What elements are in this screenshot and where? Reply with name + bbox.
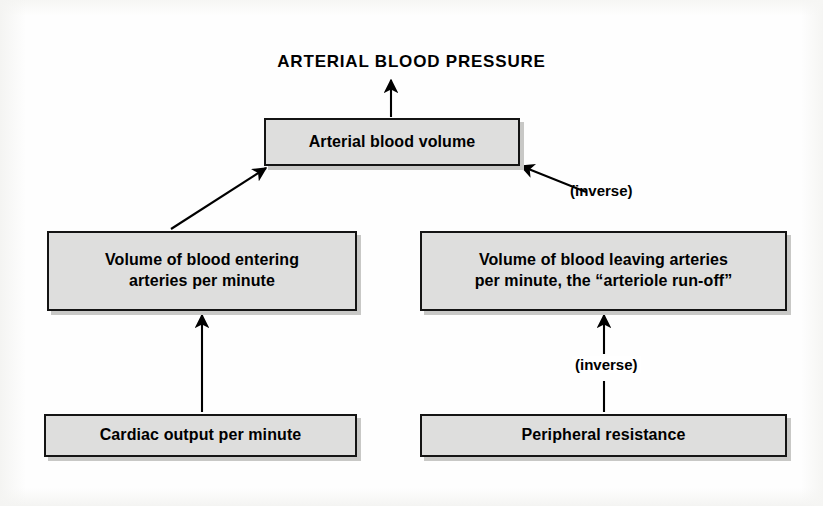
node-peripheral-resistance-label: Peripheral resistance — [522, 425, 686, 446]
edge-label-inverse-lower: (inverse) — [572, 356, 641, 373]
node-volume-entering-label: Volume of blood entering arteries per mi… — [105, 250, 299, 292]
node-arterial-blood-volume-label: Arterial blood volume — [309, 132, 476, 153]
diagram-canvas: ARTERIAL BLOOD PRESSURE --> Arterial blo… — [0, 0, 823, 506]
node-volume-entering-line2: arteries per minute — [129, 272, 275, 289]
node-volume-leaving-line1: Volume of blood leaving arteries — [479, 251, 728, 268]
node-volume-leaving-line2: per minute, the “arteriole run-off” — [475, 272, 733, 289]
node-volume-leaving-label: Volume of blood leaving arteries per min… — [475, 250, 733, 292]
node-volume-leaving[interactable]: Volume of blood leaving arteries per min… — [420, 231, 787, 311]
node-arterial-blood-volume[interactable]: Arterial blood volume — [264, 118, 520, 166]
edge-label-inverse-upper: (inverse) — [570, 182, 633, 199]
arrow-entering-to-volume — [171, 168, 266, 229]
diagram-title: ARTERIAL BLOOD PRESSURE — [0, 52, 823, 72]
node-volume-entering-line1: Volume of blood entering — [105, 251, 299, 268]
node-cardiac-output-label: Cardiac output per minute — [100, 425, 302, 446]
node-peripheral-resistance[interactable]: Peripheral resistance — [420, 414, 787, 457]
node-cardiac-output[interactable]: Cardiac output per minute — [44, 414, 357, 457]
node-volume-entering[interactable]: Volume of blood entering arteries per mi… — [47, 231, 357, 311]
